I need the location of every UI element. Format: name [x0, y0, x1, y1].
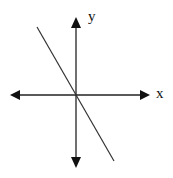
x-axis-left-arrow-icon [10, 90, 20, 100]
y-axis-down-arrow-icon [71, 157, 81, 168]
coordinate-plane-svg [0, 0, 173, 178]
coordinate-plane: y x [0, 0, 173, 178]
x-axis-label: x [156, 86, 164, 101]
x-axis-right-arrow-icon [140, 90, 150, 100]
y-axis-label: y [88, 9, 96, 24]
y-axis-up-arrow-icon [71, 17, 81, 28]
